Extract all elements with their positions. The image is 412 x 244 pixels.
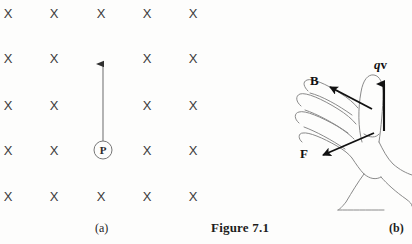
point-p-label: P <box>100 145 107 156</box>
panel-b-caption: (b) <box>389 222 404 234</box>
panel-a-caption: (a) <box>95 222 108 234</box>
velocity-arrow-svg <box>0 0 215 210</box>
hand-diagram-svg <box>288 46 412 210</box>
f-vector-arrow <box>323 133 374 155</box>
qv-label-v: v <box>381 57 388 72</box>
b-vector-arrow <box>330 87 372 109</box>
f-vector-label: F <box>300 147 308 160</box>
panel-a-field-region: XXXXXXXXXXXXXXXXXXXXXX P <box>0 0 215 210</box>
figure-caption: Figure 7.1 <box>211 221 269 234</box>
panel-b-right-hand-rule: B F qv <box>288 46 412 210</box>
figure-7-1: XXXXXXXXXXXXXXXXXXXXXX P <box>0 0 412 244</box>
b-vector-label: B <box>310 74 319 87</box>
qv-vector-label: qv <box>374 58 387 71</box>
